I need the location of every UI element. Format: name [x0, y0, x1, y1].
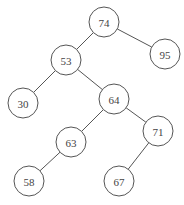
- node-label: 53: [61, 55, 73, 67]
- edge-53-64: [78, 69, 103, 89]
- tree-node-71: 71: [143, 116, 173, 146]
- node-label: 71: [153, 126, 164, 138]
- tree-node-64: 64: [99, 84, 129, 114]
- node-label: 58: [24, 176, 36, 188]
- tree-node-63: 63: [56, 127, 86, 157]
- edge-53-30: [34, 71, 56, 93]
- edge-64-71: [126, 108, 146, 122]
- tree-edges: [34, 29, 152, 171]
- edge-64-63: [82, 110, 104, 132]
- node-label: 30: [18, 98, 30, 110]
- node-label: 63: [66, 137, 78, 149]
- tree-node-95: 95: [150, 39, 180, 69]
- tree-diagram: 745395306463715867: [0, 0, 184, 205]
- node-label: 67: [114, 176, 126, 188]
- node-label: 74: [99, 17, 111, 29]
- edge-74-95: [117, 29, 151, 47]
- tree-node-30: 30: [8, 88, 38, 118]
- tree-nodes: 745395306463715867: [8, 7, 180, 196]
- edge-63-58: [40, 152, 60, 171]
- edge-71-67: [128, 143, 149, 169]
- tree-node-53: 53: [51, 45, 81, 75]
- edge-74-53: [77, 33, 94, 50]
- tree-node-74: 74: [89, 7, 119, 37]
- tree-node-58: 58: [14, 166, 44, 196]
- node-label: 95: [160, 49, 172, 61]
- tree-node-67: 67: [104, 166, 134, 196]
- node-label: 64: [109, 94, 121, 106]
